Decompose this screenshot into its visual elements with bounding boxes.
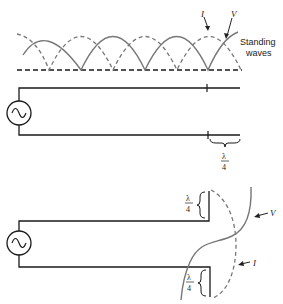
transmission-line-diagram: I V Standing waves λ 4 λ 4 λ 4: [0, 0, 283, 304]
voltage-label: V: [231, 9, 238, 19]
voltage-label: V: [270, 208, 277, 218]
voltage-arrow-icon: [227, 18, 232, 36]
current-label: I: [252, 258, 257, 268]
voltage-wave: [23, 32, 238, 70]
current-wave: [17, 34, 241, 70]
lambda-den: 4: [222, 163, 226, 172]
bottom-wire: [19, 125, 240, 135]
quarter-wave-stub-circuit: λ 4 λ 4 V I: [7, 187, 277, 300]
brace-icon: [197, 192, 205, 218]
brace-icon: [198, 270, 206, 296]
standing-label-2: waves: [245, 48, 272, 58]
brace-icon: [210, 139, 240, 147]
current-curve: [211, 190, 236, 298]
arrowhead-icon: [238, 261, 244, 266]
arrowhead-icon: [254, 213, 260, 218]
voltage-curve: [181, 187, 251, 300]
top-lambda-num: λ: [186, 194, 190, 203]
bottom-lambda-den: 4: [187, 284, 191, 293]
arrowhead-icon: [205, 26, 210, 31]
top-lambda-den: 4: [186, 205, 190, 214]
top-stub-wire: [19, 191, 209, 231]
standing-label-1: Standing: [240, 37, 276, 47]
sine-icon: [12, 239, 26, 248]
bottom-lambda-num: λ: [187, 273, 191, 282]
sine-icon: [12, 109, 26, 118]
standing-waves: I V Standing waves: [17, 9, 276, 70]
lambda-num: λ: [222, 152, 226, 161]
open-line-circuit: λ 4: [7, 84, 240, 172]
